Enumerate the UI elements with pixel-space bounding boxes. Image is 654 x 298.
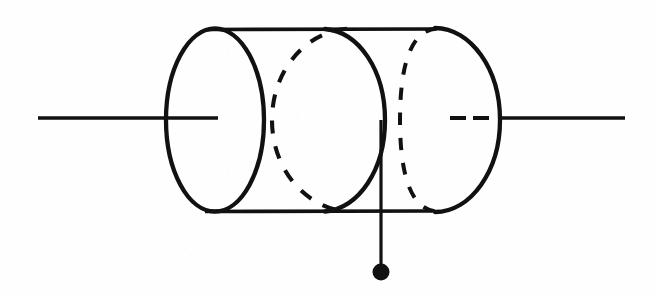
turn-2-back-dashed xyxy=(272,29,347,212)
coil-schematic-svg xyxy=(0,0,654,298)
cylinder-top-rule xyxy=(208,29,436,30)
turn-3-back-dashed xyxy=(400,29,437,212)
figure-canvas: Tapped cylindrical coil (inductor) schem… xyxy=(0,0,654,298)
turn-2-front-solid xyxy=(325,29,385,212)
turn-1-left-cap-ellipse xyxy=(166,29,264,212)
tap-terminal-dot xyxy=(373,264,390,281)
cylinder-bottom-rule xyxy=(205,211,432,212)
tap-lead xyxy=(373,120,390,281)
turn-3-front-solid xyxy=(435,28,500,212)
